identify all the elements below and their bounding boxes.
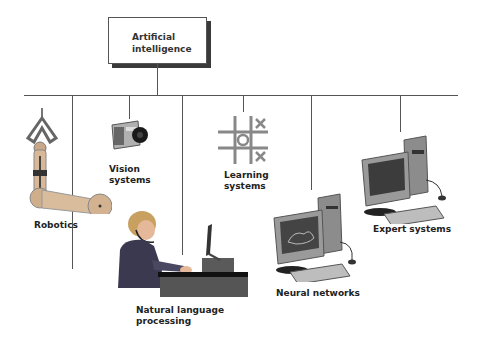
branch-label-nlp: Natural language processing	[136, 305, 224, 327]
root-node-label: Artificial intelligence	[132, 31, 192, 55]
desktop-computer-icon	[270, 192, 366, 282]
branch-bar	[24, 95, 458, 96]
drop-line-neural	[311, 95, 312, 190]
drop-line-vision	[129, 95, 130, 119]
branch-label-robotics: Robotics	[34, 220, 78, 231]
person-at-computer-icon	[114, 210, 248, 300]
branch-label-expert: Expert systems	[373, 224, 451, 235]
robotic-arm-icon	[20, 108, 112, 214]
tic-tac-toe-icon	[218, 116, 270, 164]
drop-line-expert	[400, 95, 401, 132]
branch-label-learning: Learning systems	[224, 170, 269, 192]
camera-icon	[108, 119, 148, 151]
drop-line-learning	[243, 95, 244, 112]
root-connector	[157, 64, 158, 95]
branch-label-neural: Neural networks	[276, 288, 360, 299]
branch-label-vision: Vision systems	[109, 164, 151, 186]
desktop-computer-icon	[360, 134, 456, 224]
